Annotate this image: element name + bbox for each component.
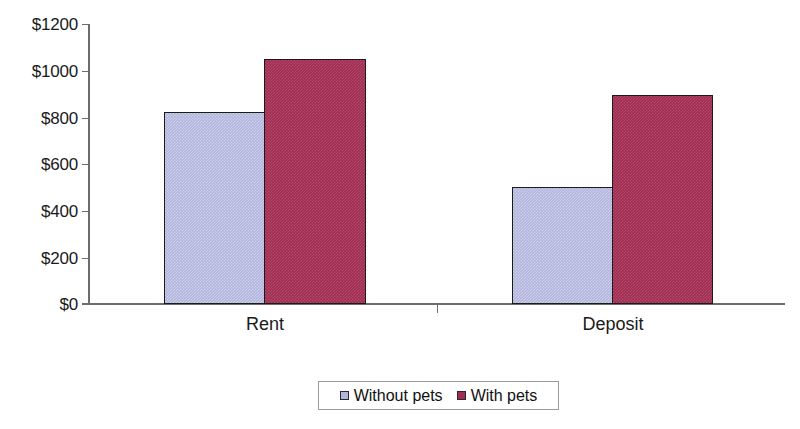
y-tick-200 xyxy=(82,258,89,259)
y-tick-800 xyxy=(82,118,89,119)
chart-legend: Without pets With pets xyxy=(318,381,559,410)
legend-swatch-without-pets-icon xyxy=(340,391,349,400)
y-axis-label-800: $800 xyxy=(41,110,78,127)
legend-swatch-with-pets-icon xyxy=(457,391,466,400)
plot-area: $1200 $1000 $800 $600 $400 $200 $0 Rent … xyxy=(0,0,800,429)
bar-deposit-with-pets[interactable] xyxy=(612,95,713,304)
bar-rent-without-pets[interactable] xyxy=(164,112,265,304)
y-tick-1200 xyxy=(82,24,89,25)
bar-rent-with-pets[interactable] xyxy=(264,59,366,304)
x-axis-label-deposit: Deposit xyxy=(553,314,673,334)
y-axis-label-1000: $1000 xyxy=(32,63,78,80)
x-axis-label-rent: Rent xyxy=(205,314,325,334)
y-axis-label-200: $200 xyxy=(41,250,78,267)
legend-entry-without-pets[interactable]: Without pets xyxy=(340,387,443,404)
y-axis-label-400: $400 xyxy=(41,203,78,220)
y-tick-400 xyxy=(82,211,89,212)
y-tick-1000 xyxy=(82,71,89,72)
y-tick-600 xyxy=(82,164,89,165)
x-axis-category-divider-tick xyxy=(437,304,438,313)
y-axis-label-600: $600 xyxy=(41,156,78,173)
y-axis-label-1200: $1200 xyxy=(32,16,78,33)
y-tick-0 xyxy=(82,303,90,305)
legend-label-without-pets: Without pets xyxy=(354,387,443,404)
y-axis-label-0: $0 xyxy=(59,296,78,313)
bar-chart: $1200 $1000 $800 $600 $400 $200 $0 Rent … xyxy=(0,0,800,429)
bar-deposit-without-pets[interactable] xyxy=(512,187,613,304)
legend-label-with-pets: With pets xyxy=(471,387,538,404)
legend-entry-with-pets[interactable]: With pets xyxy=(457,387,538,404)
